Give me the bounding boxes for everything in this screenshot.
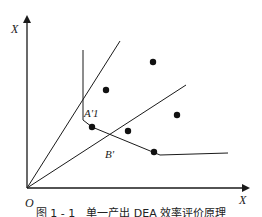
- data-point: [125, 128, 131, 134]
- data-point: [174, 112, 180, 118]
- data-point: [89, 124, 95, 130]
- point-label-a1: A'1: [84, 108, 99, 119]
- diagram-canvas: [0, 0, 262, 217]
- point-label-b: B': [105, 149, 114, 160]
- data-point: [103, 87, 109, 93]
- figure-caption: 图 1 - 1 单一产出 DEA 效率评价原理: [0, 208, 262, 217]
- y-axis-label: X: [11, 23, 18, 35]
- ray-steep: [27, 41, 120, 188]
- data-point: [150, 59, 156, 65]
- dea-efficiency-diagram: X X O A'1 B' 图 1 - 1 单一产出 DEA 效率评价原理: [0, 0, 262, 217]
- ray-shallow: [27, 85, 186, 188]
- data-point: [151, 149, 157, 155]
- x-axis-label: X: [239, 194, 246, 206]
